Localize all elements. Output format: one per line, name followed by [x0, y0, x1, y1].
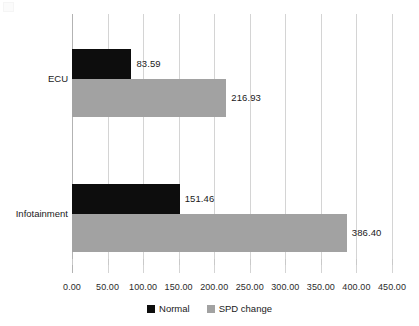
legend-item-spd-change[interactable]: SPD change	[207, 303, 272, 314]
legend-item-normal[interactable]: Normal	[147, 303, 190, 314]
x-tick-mark	[108, 259, 109, 265]
x-tick-label: 150.00	[165, 282, 193, 292]
gridline-450.00	[392, 14, 393, 273]
x-tick-mark	[285, 259, 286, 265]
legend-label: SPD change	[219, 303, 272, 314]
x-tick-mark	[72, 259, 73, 265]
bar-chart: 0.0050.00100.00150.00200.00250.00300.003…	[0, 0, 419, 326]
legend-swatch-icon	[147, 305, 155, 313]
x-tick-label: 300.00	[271, 282, 299, 292]
x-tick-mark	[143, 259, 144, 265]
category-label-ecu: ECU	[0, 73, 68, 84]
scan-artifact	[3, 2, 14, 12]
bar-value-label: 83.59	[136, 58, 160, 69]
legend-label: Normal	[159, 303, 190, 314]
x-tick-label: 400.00	[342, 282, 370, 292]
x-tick-label: 0.00	[63, 282, 81, 292]
x-tick-label: 250.00	[236, 282, 264, 292]
x-tick-mark	[214, 259, 215, 265]
x-tick-label: 350.00	[307, 282, 335, 292]
x-tick-mark	[392, 259, 393, 265]
x-tick-mark	[179, 259, 180, 265]
bar-value-label: 151.46	[185, 193, 215, 204]
legend-swatch-icon	[207, 305, 215, 313]
x-tick-mark	[321, 259, 322, 265]
x-tick-label: 100.00	[129, 282, 157, 292]
bar-spd-change-infotainment[interactable]	[72, 214, 347, 252]
x-tick-label: 200.00	[200, 282, 228, 292]
bar-normal-ecu[interactable]	[72, 49, 131, 79]
x-tick-mark	[356, 259, 357, 265]
x-tick-mark	[250, 259, 251, 265]
bar-value-label: 386.40	[352, 227, 382, 238]
x-tick-label: 50.00	[96, 282, 119, 292]
bar-normal-infotainment[interactable]	[72, 184, 180, 214]
chart-legend[interactable]: NormalSPD change	[0, 303, 419, 314]
category-label-infotainment: Infotainment	[0, 208, 68, 219]
plot-area	[72, 14, 392, 273]
bar-value-label: 216.93	[231, 92, 261, 103]
x-tick-label: 450.00	[378, 282, 406, 292]
bar-spd-change-ecu[interactable]	[72, 79, 226, 117]
